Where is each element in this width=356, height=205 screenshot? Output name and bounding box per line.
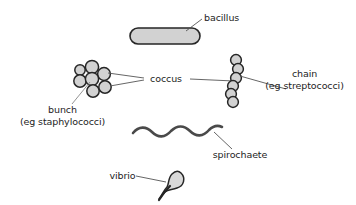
coccus-cell bbox=[228, 97, 239, 108]
bacillus-rod bbox=[130, 28, 200, 44]
coccus-cell bbox=[99, 81, 111, 93]
coccus-cell bbox=[75, 65, 85, 75]
coccus-leader-line-lower bbox=[110, 80, 144, 86]
label-bunch: bunch bbox=[0, 104, 125, 116]
vibrio-shape bbox=[159, 171, 184, 200]
coccus-chain-leader-line bbox=[190, 79, 234, 81]
bacillus-shape bbox=[130, 28, 200, 44]
coccus-cell bbox=[98, 68, 111, 81]
coccus-cell bbox=[85, 60, 98, 73]
coccus-leader-line-upper bbox=[108, 73, 144, 78]
spirochaete-filament bbox=[133, 126, 222, 136]
coccus-cell bbox=[74, 75, 86, 87]
label-vibrio: vibrio bbox=[100, 170, 145, 182]
bacteria-illustration bbox=[0, 0, 356, 205]
label-chain-example: (eg streptococci) bbox=[253, 80, 356, 92]
label-spirochaete: spirochaete bbox=[202, 149, 278, 161]
coccus-bunch-shape bbox=[74, 60, 111, 97]
spirochaete-leader-line bbox=[214, 132, 232, 149]
vibrio-tail bbox=[159, 186, 170, 200]
label-chain-group: chain (eg streptococci) bbox=[253, 68, 356, 91]
label-coccus: coccus bbox=[146, 73, 186, 85]
coccus-cell bbox=[85, 72, 98, 85]
bacteria-shapes-diagram: bacillus coccus bunch (eg staphylococci)… bbox=[0, 0, 356, 205]
label-bacillus: bacillus bbox=[204, 12, 239, 24]
label-chain: chain bbox=[253, 68, 356, 80]
label-bunch-example: (eg staphylococci) bbox=[0, 116, 125, 128]
coccus-cell bbox=[87, 85, 99, 97]
label-bunch-group: bunch (eg staphylococci) bbox=[0, 104, 125, 127]
